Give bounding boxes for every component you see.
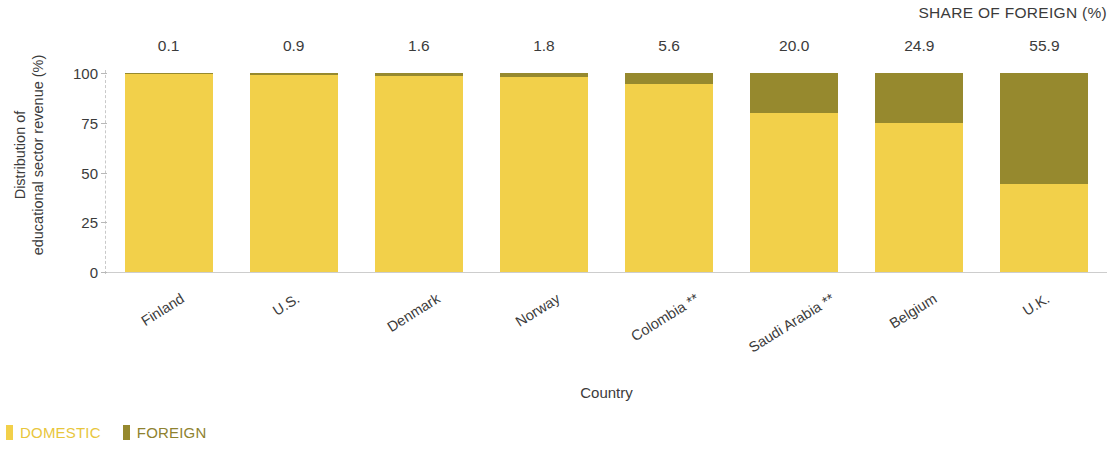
bar-value-label: 55.9 <box>1000 37 1088 55</box>
bar-group[interactable]: 20.0Saudi Arabia ** <box>750 73 838 272</box>
y-tick-label: 50 <box>50 164 98 181</box>
x-tick-label: Denmark <box>398 279 456 324</box>
bar-segment-foreign[interactable] <box>1000 73 1088 184</box>
bar-value-label: 0.9 <box>250 37 338 55</box>
x-tick-label-text: Norway <box>513 290 563 330</box>
y-tick-mark <box>101 272 107 273</box>
x-tick-label: Norway <box>527 279 577 319</box>
legend-swatch-icon <box>6 425 13 440</box>
bar-segment-foreign[interactable] <box>250 73 338 75</box>
bar-segment-domestic[interactable] <box>375 76 463 272</box>
share-of-foreign-header: SHARE OF FOREIGN (%) <box>918 4 1107 22</box>
x-tick-label-text: Saudi Arabia ** <box>746 290 837 355</box>
bar-segment-foreign[interactable] <box>625 73 713 84</box>
bar-segment-foreign[interactable] <box>500 73 588 77</box>
x-tick-label-text: U.S. <box>270 290 302 319</box>
bar-value-label: 24.9 <box>875 37 963 55</box>
x-tick-label-text: Colombia ** <box>628 290 701 344</box>
bar-segment-domestic[interactable] <box>625 84 713 272</box>
bar-segment-domestic[interactable] <box>750 113 838 272</box>
x-tick-label: Belgium <box>901 279 954 320</box>
legend-item[interactable]: DOMESTIC <box>6 424 101 441</box>
x-tick-label-text: U.K. <box>1020 290 1052 319</box>
bar-segment-foreign[interactable] <box>375 73 463 76</box>
bar-group[interactable]: 5.6Colombia ** <box>625 73 713 272</box>
x-tick-label: Finland <box>152 279 201 318</box>
y-axis-title-line1: Distribution of <box>12 111 28 200</box>
x-tick-label: U.K. <box>1035 279 1067 308</box>
chart-legend: DOMESTICFOREIGN <box>6 424 207 441</box>
bar-segment-foreign[interactable] <box>750 73 838 113</box>
bar-segment-foreign[interactable] <box>875 73 963 123</box>
y-tick-label: 75 <box>50 114 98 131</box>
x-tick-label-text: Finland <box>138 290 187 329</box>
x-axis-title: Country <box>106 384 1107 401</box>
y-tick-label: 0 <box>50 264 98 281</box>
bar-value-label: 0.1 <box>125 37 213 55</box>
y-axis-title-line2: educational sector revenue (%) <box>30 55 46 256</box>
x-tick-label: Saudi Arabia ** <box>760 279 851 344</box>
bar-group[interactable]: 0.1Finland <box>125 73 213 272</box>
x-tick-label-text: Belgium <box>887 290 940 331</box>
bar-group[interactable]: 24.9Belgium <box>875 73 963 272</box>
legend-label: FOREIGN <box>137 424 207 441</box>
bar-group[interactable]: 0.9U.S. <box>250 73 338 272</box>
bar-segment-domestic[interactable] <box>875 123 963 272</box>
bar-value-label: 1.6 <box>375 37 463 55</box>
bar-segment-domestic[interactable] <box>125 73 213 272</box>
plot-area: 0.1Finland0.9U.S.1.6Denmark1.8Norway5.6C… <box>106 73 1107 272</box>
bar-value-label: 1.8 <box>500 37 588 55</box>
bar-group[interactable]: 1.6Denmark <box>375 73 463 272</box>
legend-item[interactable]: FOREIGN <box>123 424 207 441</box>
bar-value-label: 20.0 <box>750 37 838 55</box>
legend-swatch-icon <box>123 425 130 440</box>
bar-segment-domestic[interactable] <box>250 75 338 272</box>
bar-segment-domestic[interactable] <box>1000 184 1088 272</box>
x-tick-label: U.S. <box>284 279 316 308</box>
chart-figure: SHARE OF FOREIGN (%) Distribution of edu… <box>0 0 1119 450</box>
x-tick-label-text: Denmark <box>384 290 442 335</box>
bar-value-label: 5.6 <box>625 37 713 55</box>
y-tick-label: 100 <box>50 65 98 82</box>
legend-label: DOMESTIC <box>20 424 101 441</box>
y-tick-label: 25 <box>50 214 98 231</box>
bar-group[interactable]: 1.8Norway <box>500 73 588 272</box>
bar-segment-domestic[interactable] <box>500 77 588 272</box>
x-axis-line <box>106 272 1107 273</box>
x-tick-label: Colombia ** <box>642 279 715 333</box>
bar-group[interactable]: 55.9U.K. <box>1000 73 1088 272</box>
